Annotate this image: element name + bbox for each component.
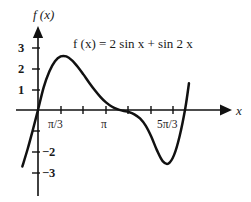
- y-tick-label-minus-2: −2: [42, 146, 55, 159]
- x-tick-label-pi: π: [101, 119, 107, 131]
- y-tick-label-1: 1: [18, 84, 24, 97]
- x-tick-label-5pi-over-3: 5π/3: [157, 119, 178, 131]
- function-plot: [0, 0, 251, 202]
- y-tick-label-3: 3: [18, 42, 24, 55]
- x-tick-label-pi-over-3: π/3: [48, 119, 63, 131]
- y-tick-label-2: 2: [18, 63, 24, 76]
- x-axis-label: x: [236, 104, 242, 117]
- equation-annotation: f (x) = 2 sin x + sin 2 x: [73, 37, 193, 50]
- y-axis-label: f (x): [33, 8, 54, 21]
- y-tick-label-minus-3: −3: [42, 167, 55, 180]
